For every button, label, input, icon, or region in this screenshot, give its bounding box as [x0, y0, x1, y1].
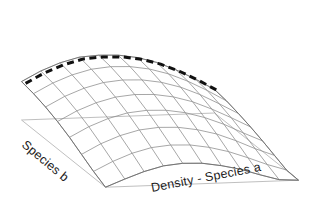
- surface-plot-figure: Density - Species a Species b: [0, 0, 320, 209]
- y-axis-label: Species b: [19, 138, 71, 185]
- surface-plot-svg: Density - Species a Species b: [0, 0, 320, 209]
- ridge-dashed-curve: [26, 57, 219, 91]
- y-axis-label-group: Species b: [19, 138, 71, 185]
